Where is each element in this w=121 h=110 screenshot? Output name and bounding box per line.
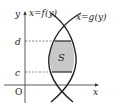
area-between-curves-diagram: y x=f(y) x=g(y) d c S O x <box>0 0 121 110</box>
curve-g-label: x=g(y) <box>76 12 107 22</box>
c-label: c <box>15 68 20 78</box>
curve-f-label: x=f(y) <box>29 8 58 18</box>
x-axis-label: x <box>93 87 98 97</box>
d-label: d <box>15 37 21 47</box>
region-label: S <box>58 52 65 63</box>
y-axis-label: y <box>14 9 21 19</box>
y-axis-arrow-icon <box>23 11 26 15</box>
origin-label: O <box>15 87 22 97</box>
